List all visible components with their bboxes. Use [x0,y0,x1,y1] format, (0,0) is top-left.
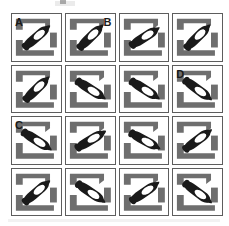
grid-cell[interactable] [119,168,170,217]
grid-cell[interactable]: C [11,116,62,165]
pen-icon [126,128,162,153]
frame-bracket-right [104,136,111,151]
pen-icon [73,127,109,153]
pen-grid: ABDC [11,13,223,216]
frame-bracket-right [158,33,165,48]
cell-graphic [66,117,115,164]
grid-cell[interactable] [11,168,62,217]
grid-cell[interactable] [65,65,116,114]
pen-icon [181,126,215,155]
frame-bracket-top [177,173,211,184]
grid-cell[interactable] [119,13,170,62]
frame-bracket-right [211,84,218,99]
grid-cell[interactable] [65,116,116,165]
pen-icon [181,178,215,207]
pen-icon [20,176,53,206]
pen-icon [73,76,108,103]
pen-icon [20,22,53,52]
pen-icon [181,75,215,104]
grid-cell[interactable] [119,116,170,165]
scan-artifact-bottom [8,219,220,222]
cell-graphic [173,169,222,216]
frame-bracket-right [50,84,57,99]
cell-graphic [66,169,115,216]
pen-icon [74,21,106,52]
cell-graphic [120,169,169,216]
frame-bracket-right [211,187,218,202]
cell-graphic [120,66,169,113]
frame-bracket-right [50,187,57,202]
cell-label-c: C [15,120,23,131]
grid-cell[interactable] [119,65,170,114]
grid-cell[interactable] [11,65,62,114]
grid-cell[interactable] [172,13,223,62]
cell-graphic [173,117,222,164]
grid-cell[interactable]: D [172,65,223,114]
grid-cell[interactable] [65,168,116,217]
pen-icon [127,24,162,51]
cell-graphic [66,66,115,113]
pen-icon [182,21,214,52]
pen-icon [21,73,53,104]
pen-icon [19,127,54,154]
pen-icon [127,178,162,206]
cell-label-b: B [104,17,112,28]
grid-cell[interactable] [172,168,223,217]
frame-bracket-top [123,70,157,81]
pen-icon [73,178,108,206]
frame-bracket-right [104,33,111,48]
frame-bracket-top [70,70,104,81]
cell-graphic [120,14,169,61]
frame-bracket-top [123,122,157,133]
cell-graphic [120,117,169,164]
cell-label-d: D [176,69,184,80]
frame-bracket-right [158,187,165,202]
grid-cell[interactable]: A [11,13,62,62]
cell-graphic [173,14,222,61]
grid-cell[interactable] [172,116,223,165]
scan-artifact-mark [60,0,66,4]
frame-bracket-right [104,187,111,202]
frame-bracket-right [211,136,218,151]
frame-bracket-right [50,33,57,48]
frame-bracket-top [70,173,104,184]
cell-graphic [12,66,61,113]
grid-cell[interactable]: B [65,13,116,62]
frame-bracket-right [211,33,218,48]
cell-graphic [12,169,61,216]
pen-icon [127,76,162,103]
pen-grid-figure: ABDC [0,0,229,226]
cell-label-a: A [15,17,23,28]
